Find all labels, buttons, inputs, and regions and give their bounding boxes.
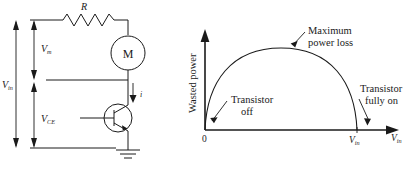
transistor-emitter-lead [114, 123, 128, 150]
v-in-label: Vin [2, 79, 13, 91]
wasted-power-curve [205, 48, 357, 130]
v-in-arrow-down [13, 138, 19, 148]
annotation-max-power-line2: power loss [308, 37, 353, 48]
annotation-max-power-line1: Maximum [308, 25, 352, 36]
annotation-transistor-on-line2: fully on [365, 95, 399, 106]
annotation-transistor-off-line2: off [241, 106, 254, 117]
resistor-symbol [63, 14, 128, 26]
annotation-transistor-off-arrowhead [210, 117, 217, 123]
annotation-transistor-on-arrowhead [364, 118, 371, 125]
v-in-arrow-up [13, 20, 19, 30]
v-ce-label: VCE [41, 113, 55, 125]
wasted-power-chart-panel: Wasted power 0 Vin Vin Maximum power los… [185, 0, 420, 171]
current-arrow-head [130, 95, 137, 103]
v-ce-arrow-up [31, 82, 37, 92]
v-ce-arrow-down [31, 138, 37, 148]
v-in-subscript: in [8, 84, 13, 91]
figure-root: R M i [0, 0, 420, 171]
x-tick-label-vin: Vin [349, 135, 360, 146]
v-m-arrow-down [31, 70, 37, 80]
current-label: i [140, 90, 142, 99]
v-m-subscript: m [47, 48, 52, 55]
motor-label: M [123, 47, 134, 61]
x-axis-label-subscript: in [397, 137, 402, 144]
annotation-max-power-arrowhead [291, 41, 298, 47]
v-m-arrow-up [31, 20, 37, 30]
chart-svg: Wasted power 0 Vin Vin Maximum power los… [185, 0, 420, 171]
x-axis-label: Vin [391, 133, 402, 144]
annotation-transistor-off-line1: Transistor [231, 94, 274, 105]
x-tick-label-0: 0 [202, 134, 207, 144]
x-tick-vin-subscript: in [355, 139, 360, 146]
y-axis-label: Wasted power [187, 53, 198, 113]
annotation-transistor-on-line1: Transistor [360, 83, 403, 94]
v-ce-subscript: CE [47, 118, 55, 125]
circuit-svg: R M i [0, 0, 185, 171]
resistor-label: R [80, 1, 87, 12]
y-axis-arrowhead [201, 29, 210, 42]
v-m-label: Vm [41, 43, 52, 55]
circuit-diagram-panel: R M i [0, 0, 185, 171]
